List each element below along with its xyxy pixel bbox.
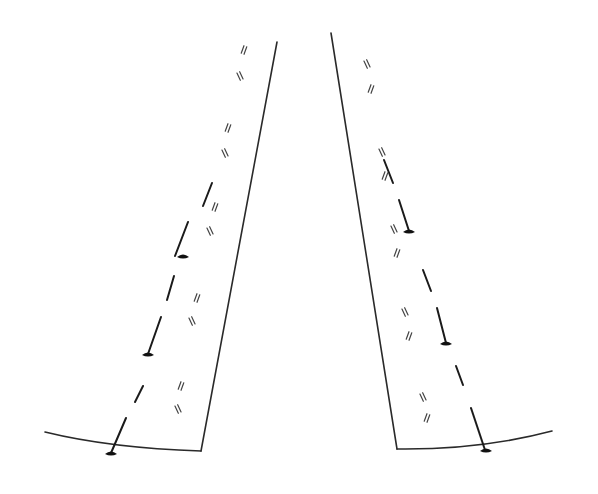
tick-stroke [181, 383, 184, 391]
nail-line-dash [111, 418, 126, 453]
double-tick-mark [241, 46, 247, 55]
nail-line-dash [135, 386, 143, 402]
double-tick-mark [207, 227, 213, 236]
tick-stroke [237, 73, 240, 80]
tick-stroke [244, 47, 247, 55]
tick-stroke [178, 405, 181, 412]
right-panel-outer-edge [331, 33, 397, 449]
nail-head-icon [177, 255, 189, 259]
tick-stroke [427, 415, 430, 423]
tick-stroke [207, 228, 210, 235]
tick-stroke [397, 250, 400, 258]
double-tick-mark [194, 294, 200, 303]
left-panel-bottom-arc [45, 432, 201, 451]
diagram-canvas [0, 0, 598, 494]
nail-line-dash [423, 270, 431, 291]
tick-stroke [420, 394, 423, 401]
nail-line-dash [471, 408, 485, 450]
tick-stroke [225, 124, 228, 132]
nail-line-dash [203, 183, 212, 206]
double-tick-mark [406, 332, 412, 341]
tick-stroke [194, 294, 197, 302]
tick-stroke [240, 72, 243, 79]
tick-stroke [368, 85, 371, 93]
tick-stroke [241, 46, 244, 54]
tick-stroke [225, 149, 228, 156]
tick-stroke [391, 226, 394, 233]
tick-stroke [405, 308, 408, 315]
double-tick-mark [175, 405, 181, 414]
tick-stroke [197, 295, 200, 303]
diagram-svg [0, 0, 598, 494]
nail-head-icon [142, 353, 154, 357]
tick-stroke [424, 414, 427, 422]
left-nails [105, 255, 189, 456]
double-tick-mark [424, 414, 430, 423]
right-panel [331, 33, 552, 453]
nail-line-dash [437, 308, 446, 343]
tick-stroke [367, 60, 370, 67]
tick-stroke [364, 61, 367, 68]
left-panel-outer-edge [201, 42, 277, 451]
tick-stroke [382, 172, 385, 180]
double-tick-mark [237, 72, 243, 81]
nail-head-icon [403, 230, 415, 234]
nail-head-icon [480, 449, 492, 453]
nail-head-icon [105, 452, 117, 456]
tick-stroke [382, 148, 385, 155]
right-nails [403, 230, 492, 453]
tick-stroke [402, 309, 405, 316]
tick-stroke [210, 227, 213, 234]
double-tick-mark [391, 225, 397, 234]
tick-stroke [394, 249, 397, 257]
tick-stroke [178, 382, 181, 390]
tick-stroke [379, 149, 382, 156]
double-tick-mark [420, 393, 426, 402]
tick-stroke [212, 203, 215, 211]
tick-stroke [192, 317, 195, 324]
double-tick-mark [382, 172, 388, 181]
double-tick-mark [379, 148, 385, 157]
right-panel-bottom-arc [397, 431, 552, 449]
double-tick-mark [364, 60, 370, 69]
tick-stroke [385, 173, 388, 181]
tick-stroke [406, 332, 409, 340]
right-nail-line [384, 160, 485, 450]
double-tick-mark [212, 203, 218, 212]
tick-stroke [394, 225, 397, 232]
tick-stroke [409, 333, 412, 341]
tick-stroke [423, 393, 426, 400]
left-panel [45, 42, 277, 456]
double-tick-mark [189, 317, 195, 326]
tick-stroke [175, 406, 178, 413]
double-tick-mark [368, 85, 374, 94]
double-tick-mark [222, 149, 228, 158]
left-nail-line [111, 183, 212, 453]
nail-line-dash [167, 276, 174, 300]
nail-line-dash [175, 222, 188, 256]
double-tick-mark [402, 308, 408, 317]
tick-stroke [222, 150, 225, 157]
tick-stroke [215, 204, 218, 212]
nail-head-icon [440, 342, 452, 346]
double-tick-mark [394, 249, 400, 258]
tick-stroke [371, 86, 374, 94]
right-tick-marks [364, 60, 430, 423]
nail-line-dash [456, 366, 463, 385]
nail-line-dash [399, 200, 409, 231]
double-tick-mark [225, 124, 231, 133]
tick-stroke [228, 125, 231, 133]
double-tick-mark [178, 382, 184, 391]
tick-stroke [189, 318, 192, 325]
nail-line-dash [148, 317, 161, 354]
